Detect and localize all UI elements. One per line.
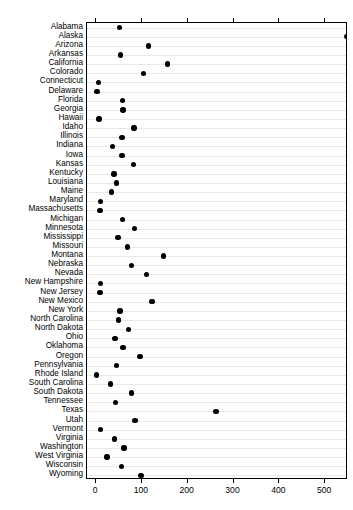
data-point	[96, 80, 101, 85]
y-axis-tick-label: New Mexico	[0, 297, 83, 305]
y-axis-tick-label: New Hampshire	[0, 278, 83, 286]
data-point	[144, 272, 149, 277]
gridline	[87, 265, 346, 266]
gridline	[87, 274, 346, 275]
data-point	[104, 454, 109, 459]
data-point	[129, 390, 134, 395]
data-point	[119, 135, 124, 140]
data-point	[138, 473, 143, 478]
y-axis-tick-label: Arizona	[0, 41, 83, 49]
y-axis-tick-label: Hawaii	[0, 114, 83, 122]
y-axis-tick-label: Ohio	[0, 333, 83, 341]
data-point	[97, 290, 102, 295]
y-axis-tick-label: West Virginia	[0, 452, 83, 460]
y-axis-tick-label: Montana	[0, 251, 83, 259]
data-point	[112, 436, 117, 441]
data-point	[117, 25, 122, 30]
gridline	[87, 393, 346, 394]
x-axis-tick-label: 500	[317, 485, 331, 495]
y-axis-tick-label: Alaska	[0, 32, 83, 40]
gridline	[87, 174, 346, 175]
gridline	[87, 201, 346, 202]
data-point	[116, 317, 121, 322]
data-point	[344, 34, 347, 39]
data-point	[131, 125, 136, 130]
y-axis-tick-label: Michigan	[0, 214, 83, 222]
y-axis-tick-label: Georgia	[0, 105, 83, 113]
y-axis-tick-label: Missouri	[0, 242, 83, 250]
x-axis-bottom: 0100200300400500	[86, 479, 347, 510]
data-point	[110, 144, 115, 149]
gridline	[87, 183, 346, 184]
gridline	[87, 475, 346, 476]
y-axis-tick-label: Mississippi	[0, 233, 83, 241]
y-axis-tick-label: Colorado	[0, 68, 83, 76]
gridline	[87, 55, 346, 56]
gridline	[87, 229, 346, 230]
gridline	[87, 421, 346, 422]
gridline	[87, 375, 346, 376]
data-point	[98, 281, 103, 286]
data-point	[98, 427, 103, 432]
data-point	[94, 89, 99, 94]
data-point	[114, 363, 119, 368]
y-axis-tick-label: Iowa	[0, 150, 83, 158]
gridline	[87, 366, 346, 367]
data-point	[132, 418, 137, 423]
data-point	[213, 409, 218, 414]
gridline	[87, 119, 346, 120]
gridline	[87, 165, 346, 166]
gridline	[87, 156, 346, 157]
gridline	[87, 384, 346, 385]
y-axis-tick-label: Indiana	[0, 141, 83, 149]
y-axis-tick-label: Nebraska	[0, 260, 83, 268]
data-point	[117, 308, 122, 313]
data-point	[131, 162, 136, 167]
data-point	[141, 71, 146, 76]
y-axis-tick-label: Alabama	[0, 22, 83, 30]
x-axis-tick-label: 100	[134, 485, 148, 495]
gridline	[87, 283, 346, 284]
x-axis-tick	[95, 479, 96, 483]
data-point	[121, 445, 126, 450]
y-axis-tick-label: California	[0, 59, 83, 67]
y-axis-tick-label: Vermont	[0, 425, 83, 433]
y-axis-tick-label: Virginia	[0, 434, 83, 442]
data-point	[132, 226, 137, 231]
data-point	[165, 61, 170, 66]
y-axis-tick-label: Nevada	[0, 269, 83, 277]
data-point	[161, 253, 166, 258]
y-axis-tick-label: North Dakota	[0, 324, 83, 332]
data-point	[109, 189, 114, 194]
y-axis-tick-label: New York	[0, 306, 83, 314]
y-axis-tick-label: Maryland	[0, 196, 83, 204]
data-point	[120, 98, 125, 103]
y-axis-tick-label: South Dakota	[0, 388, 83, 396]
gridline	[87, 238, 346, 239]
gridline	[87, 37, 346, 38]
x-axis-tick	[141, 479, 142, 483]
x-axis-tick-label: 200	[180, 485, 194, 495]
gridline	[87, 311, 346, 312]
gridline	[87, 256, 346, 257]
data-point	[94, 372, 99, 377]
y-axis-tick-label: Utah	[0, 415, 83, 423]
gridline	[87, 293, 346, 294]
gridline	[87, 82, 346, 83]
data-point	[126, 327, 131, 332]
y-axis-tick-label: Illinois	[0, 132, 83, 140]
y-axis-tick-label: Pennsylvania	[0, 361, 83, 369]
x-axis-tick	[233, 479, 234, 483]
y-axis-tick-label: Massachusetts	[0, 205, 83, 213]
gridline	[87, 192, 346, 193]
data-point	[112, 336, 117, 341]
y-axis-tick-label: Florida	[0, 96, 83, 104]
data-point	[108, 381, 113, 386]
y-axis-tick-label: Kentucky	[0, 169, 83, 177]
y-axis-tick-label: Tennessee	[0, 397, 83, 405]
data-point	[137, 354, 142, 359]
data-point	[149, 299, 154, 304]
y-axis-tick-label: North Carolina	[0, 315, 83, 323]
y-axis-tick-label: Oklahoma	[0, 342, 83, 350]
gridline	[87, 338, 346, 339]
